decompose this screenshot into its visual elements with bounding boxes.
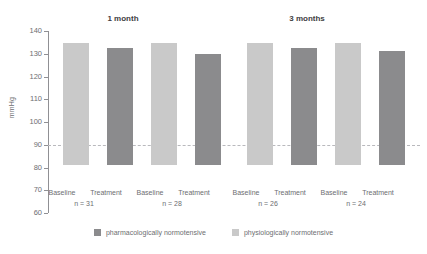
panel-title-1-month: 1 month [63, 14, 183, 23]
y-tick-label-100: 100 [29, 117, 42, 127]
xlabel-p2-treatment-1: Treatment [267, 189, 313, 196]
bar-p1-baseline-1 [63, 43, 89, 165]
y-axis-line [48, 31, 49, 213]
xlabel-p2-baseline-1: Baseline [223, 189, 269, 196]
legend-label-physiologically: physiologically normotensive [244, 229, 333, 236]
y-tick-label-60: 60 [34, 208, 42, 218]
bar-p2-treatment-2 [379, 51, 405, 165]
xlabel-p1-treatment-1: Treatment [83, 189, 129, 196]
xlabel-p1-baseline-1: Baseline [39, 189, 85, 196]
n-label-p1-group-2: n = 28 [149, 200, 195, 207]
y-tick-label-130: 130 [29, 49, 42, 59]
legend-swatch-icon-pharmacologically [94, 229, 101, 236]
y-tick-label-140: 140 [29, 26, 42, 36]
legend-label-pharmacologically: pharmacologically normotensive [106, 229, 206, 236]
bar-p1-treatment-1 [107, 48, 133, 165]
xlabel-p1-baseline-2: Baseline [127, 189, 173, 196]
bar-chart-figure: mmHg 140 130 120 110 100 90 [0, 0, 427, 254]
xlabel-p1-treatment-2: Treatment [171, 189, 217, 196]
bar-p1-baseline-2 [151, 43, 177, 165]
bar-p2-baseline-2 [335, 43, 361, 165]
n-label-p2-group-2: n = 24 [333, 200, 379, 207]
y-tick-label-120: 120 [29, 72, 42, 82]
legend-item-pharmacologically-normotensive: pharmacologically normotensive [94, 229, 206, 236]
y-tick-label-80: 80 [34, 163, 42, 173]
plot-area: 140 130 120 110 100 90 80 70 [48, 31, 420, 213]
y-tick-label-90: 90 [34, 140, 42, 150]
legend-swatch-icon-physiologically [232, 229, 239, 236]
xlabel-p2-baseline-2: Baseline [311, 189, 357, 196]
chart-legend: pharmacologically normotensive physiolog… [0, 229, 427, 236]
y-axis-label: mmHg [8, 88, 15, 128]
xlabel-p2-treatment-2: Treatment [355, 189, 401, 196]
y-tick-label-110: 110 [30, 94, 42, 104]
n-label-p2-group-1: n = 26 [245, 200, 291, 207]
legend-item-physiologically-normotensive: physiologically normotensive [232, 229, 333, 236]
panel-title-3-months: 3 months [247, 14, 367, 23]
n-label-p1-group-1: n = 31 [61, 200, 107, 207]
bar-p2-treatment-1 [291, 48, 317, 165]
reference-line-90 [48, 145, 420, 146]
bar-p1-treatment-2 [195, 54, 221, 166]
bar-p2-baseline-1 [247, 43, 273, 165]
